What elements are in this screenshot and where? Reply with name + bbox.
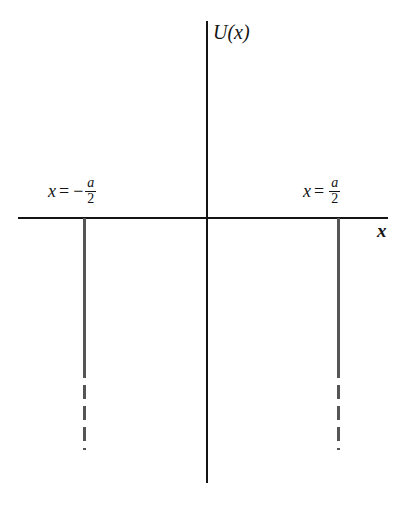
square-well-potential-figure: U(x) x x = − a 2 x = a 2 [0, 0, 407, 510]
left-label-equals: = [59, 182, 69, 200]
right-label-denominator: 2 [330, 192, 339, 206]
right-well-position-label: x = a 2 [303, 176, 340, 207]
left-well-position-label: x = − a 2 [48, 176, 96, 207]
right-label-equals: = [314, 182, 324, 200]
right-label-fraction: a 2 [329, 176, 340, 207]
figure-canvas [0, 0, 407, 510]
left-label-fraction: a 2 [85, 176, 96, 207]
left-label-denominator: 2 [86, 192, 95, 206]
left-label-numerator: a [86, 176, 95, 190]
x-axis-label: x [377, 221, 387, 240]
right-label-numerator: a [330, 176, 339, 190]
y-axis-label: U(x) [213, 22, 250, 42]
left-label-minus: − [73, 182, 83, 200]
left-label-variable: x [48, 182, 56, 200]
right-label-variable: x [303, 182, 311, 200]
